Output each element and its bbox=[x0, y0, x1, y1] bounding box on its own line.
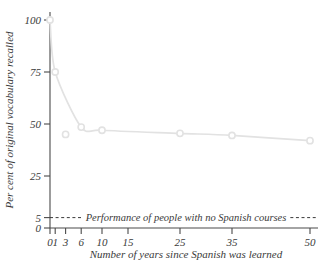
x-axis-ticks: 01361015253550 bbox=[47, 228, 316, 248]
reference-line-label: Performance of people with no Spanish co… bbox=[85, 212, 287, 223]
x-tick-label: 3 bbox=[62, 236, 69, 248]
data-point-marker bbox=[307, 138, 313, 144]
y-axis-title: Per cent of original vocabulary recalled bbox=[3, 31, 15, 210]
x-tick-label: 6 bbox=[78, 236, 84, 248]
x-tick-label: 35 bbox=[226, 236, 239, 248]
data-point-marker bbox=[78, 124, 84, 130]
x-tick-label: 1 bbox=[52, 236, 58, 248]
y-tick-label: 75 bbox=[30, 66, 42, 78]
x-axis-title: Number of years since Spanish was learne… bbox=[89, 248, 283, 260]
y-tick-label: 50 bbox=[30, 118, 42, 130]
reference-line-group: Performance of people with no Spanish co… bbox=[50, 212, 318, 223]
y-tick-label: 0 bbox=[36, 222, 42, 234]
data-point-marker bbox=[52, 69, 58, 75]
vocabulary-recall-line-chart: 05255075100 01361015253550 Performance o… bbox=[0, 0, 323, 267]
data-point-marker bbox=[229, 132, 235, 138]
x-tick-label: 15 bbox=[123, 236, 135, 248]
y-axis-ticks: 05255075100 bbox=[25, 14, 51, 234]
data-point-marker bbox=[99, 127, 105, 133]
data-point-marker bbox=[63, 131, 69, 137]
x-tick-label: 10 bbox=[97, 236, 109, 248]
x-tick-label: 50 bbox=[305, 236, 317, 248]
x-tick-label: 25 bbox=[175, 236, 187, 248]
chart-container: 05255075100 01361015253550 Performance o… bbox=[0, 0, 323, 267]
data-series bbox=[47, 17, 313, 144]
data-point-marker bbox=[177, 130, 183, 136]
y-tick-label: 5 bbox=[36, 212, 42, 224]
y-tick-label: 100 bbox=[25, 14, 42, 26]
series-markers bbox=[47, 17, 313, 144]
y-tick-label: 25 bbox=[30, 170, 42, 182]
data-point-marker bbox=[47, 17, 53, 23]
series-line-path bbox=[50, 20, 310, 141]
axis-lines bbox=[50, 12, 318, 228]
